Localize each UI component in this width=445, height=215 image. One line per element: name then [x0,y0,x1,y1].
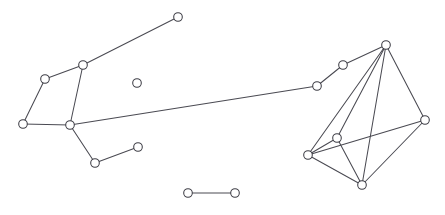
graph-node[interactable] [174,13,183,22]
graph-node[interactable] [339,61,348,70]
graph-edge [386,45,425,120]
graph-edge [308,138,337,155]
graph-edge [337,45,386,138]
graph-edge [70,86,317,125]
graph-node[interactable] [19,120,28,129]
graph-node[interactable] [134,143,143,152]
network-graph-svg [0,0,445,215]
graph-node[interactable] [184,189,193,198]
graph-node[interactable] [333,134,342,143]
graph-node[interactable] [231,189,240,198]
graph-edge [95,147,138,163]
graph-edge [45,65,83,79]
graph-edge [83,17,178,65]
graph-node[interactable] [79,61,88,70]
graph-node[interactable] [382,41,391,50]
graph-edge [70,65,83,125]
network-graph-canvas [0,0,445,215]
graph-edge [23,79,45,124]
graph-node[interactable] [304,151,313,160]
graph-edge [70,125,95,163]
graph-node[interactable] [41,75,50,84]
graph-node[interactable] [91,159,100,168]
node-layer [19,13,430,198]
graph-node[interactable] [421,116,430,125]
graph-node[interactable] [133,79,142,88]
graph-node[interactable] [313,82,322,91]
edge-layer [23,17,425,193]
graph-edge [23,124,70,125]
graph-edge [317,65,343,86]
graph-node[interactable] [66,121,75,130]
graph-edge [308,45,386,155]
graph-node[interactable] [358,181,367,190]
